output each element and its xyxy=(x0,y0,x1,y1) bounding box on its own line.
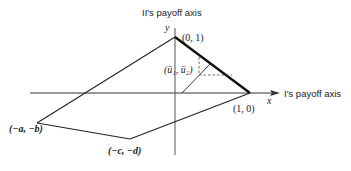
point-label-left: (−a, −b) xyxy=(9,123,43,135)
edge-left-bottom xyxy=(37,123,130,139)
point-label-bottom: (−c, −d) xyxy=(108,145,141,157)
x-axis-title: I's payoff axis xyxy=(284,88,341,99)
y-symbol: y xyxy=(164,22,170,33)
point-label-right: (1, 0) xyxy=(233,103,255,115)
edge-top-left xyxy=(37,37,175,123)
point-label-interior: (ū₁, ū₂) xyxy=(164,64,193,76)
edge-bottom-right xyxy=(130,93,250,139)
payoff-diagram: II's payoff axis I's payoff axis y x (0,… xyxy=(0,0,351,171)
x-symbol: x xyxy=(266,95,272,106)
point-label-top: (0, 1) xyxy=(182,32,204,44)
y-axis-title: II's payoff axis xyxy=(142,7,202,18)
